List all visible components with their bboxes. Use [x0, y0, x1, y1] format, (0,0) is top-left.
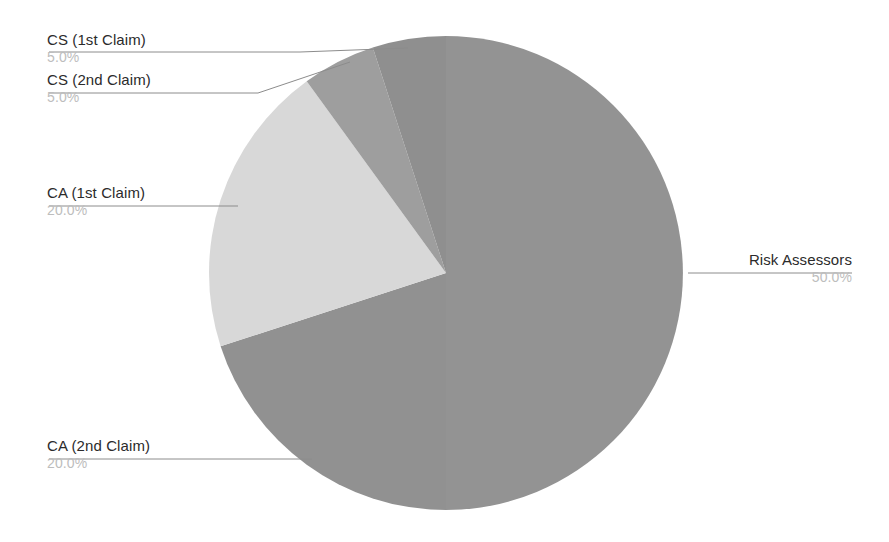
- pie-label-cs-2nd-claim-name: CS (2nd Claim): [47, 71, 151, 89]
- pie-label-ca-1st-claim: CA (1st Claim) 20.0%: [47, 184, 145, 219]
- pie-label-ca-2nd-claim-name: CA (2nd Claim): [47, 437, 150, 455]
- pie-label-cs-2nd-claim: CS (2nd Claim) 5.0%: [47, 71, 151, 106]
- pie-label-cs-1st-claim: CS (1st Claim) 5.0%: [47, 31, 146, 66]
- pie-label-cs-1st-claim-percent: 5.0%: [47, 49, 146, 66]
- pie-label-ca-2nd-claim: CA (2nd Claim) 20.0%: [47, 437, 150, 472]
- pie-slice-risk-assessors[interactable]: [446, 36, 683, 510]
- pie-label-ca-1st-claim-percent: 20.0%: [47, 202, 145, 219]
- pie-label-risk-assessors-name: Risk Assessors: [722, 251, 852, 269]
- pie-label-ca-1st-claim-name: CA (1st Claim): [47, 184, 145, 202]
- pie-label-risk-assessors-percent: 50.0%: [722, 269, 852, 286]
- pie-label-cs-2nd-claim-percent: 5.0%: [47, 89, 151, 106]
- pie-chart: CS (1st Claim) 5.0% CS (2nd Claim) 5.0% …: [0, 0, 889, 542]
- pie-label-ca-2nd-claim-percent: 20.0%: [47, 455, 150, 472]
- pie-label-cs-1st-claim-name: CS (1st Claim): [47, 31, 146, 49]
- pie-label-risk-assessors: Risk Assessors 50.0%: [722, 251, 852, 286]
